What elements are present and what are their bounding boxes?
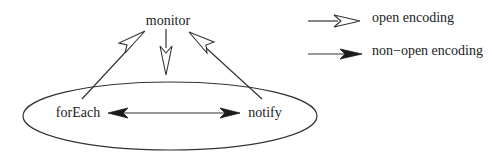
legend-item-filled: non−open encoding <box>308 43 483 59</box>
legend-label-filled: non−open encoding <box>372 43 483 58</box>
node-monitor: monitor <box>146 13 191 28</box>
open-arrowhead-icon <box>119 31 145 53</box>
legend-item-open: open encoding <box>308 10 454 27</box>
legend: open encoding non−open encoding <box>308 10 483 59</box>
node-notify: notify <box>248 105 281 120</box>
edge-notify-to-monitor <box>189 32 262 99</box>
legend-label-open: open encoding <box>372 10 454 25</box>
open-arrowhead-icon <box>160 46 172 75</box>
edge-monitor-to-group <box>160 29 172 75</box>
diagram-canvas: monitor forEach notify open encoding non… <box>0 0 492 158</box>
node-forEach: forEach <box>56 105 100 120</box>
edge-forEach-notify-bidirectional <box>108 108 240 118</box>
edge-forEach-to-monitor <box>82 31 145 99</box>
open-arrowhead-icon <box>189 32 214 53</box>
